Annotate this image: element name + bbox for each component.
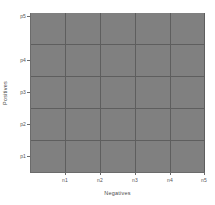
x-tick-label: n5: [201, 177, 207, 183]
y-axis-title: Positives: [0, 13, 10, 172]
gridline-vertical: [100, 13, 101, 172]
gridline-horizontal: [30, 140, 205, 141]
x-axis-tick: [204, 172, 205, 175]
x-axis-tick: [100, 172, 101, 175]
gridline-vertical: [65, 13, 66, 172]
x-axis-tick: [170, 172, 171, 175]
gridline-horizontal: [30, 76, 205, 77]
x-axis-tick: [135, 172, 136, 175]
plot-panel: [30, 13, 205, 172]
y-tick-label: p3: [20, 89, 26, 95]
y-tick-label: p1: [20, 153, 26, 159]
gridline-horizontal: [30, 44, 205, 45]
y-tick-label: p5: [20, 13, 26, 19]
y-axis-tick: [27, 16, 30, 17]
x-tick-label: n2: [97, 177, 103, 183]
gridline-horizontal: [30, 108, 205, 109]
gridline-vertical: [170, 13, 171, 172]
y-tick-label: p2: [20, 121, 26, 127]
y-tick-label: p4: [20, 57, 26, 63]
y-axis-tick: [27, 156, 30, 157]
gridline-vertical: [204, 13, 205, 172]
y-axis-tick: [27, 124, 30, 125]
y-axis-tick: [27, 92, 30, 93]
y-axis-tick: [27, 60, 30, 61]
x-tick-label: n3: [132, 177, 138, 183]
x-axis-tick: [65, 172, 66, 175]
x-tick-label: n4: [167, 177, 173, 183]
x-axis-line: [30, 172, 205, 173]
x-tick-label: n1: [62, 177, 68, 183]
gridline-vertical: [135, 13, 136, 172]
y-axis-line: [30, 13, 31, 172]
x-axis-title: Negatives: [30, 190, 205, 196]
chart-container: n1 n2 n3 n4 n5 p1 p2 p3 p4 p5 Negatives …: [0, 0, 215, 205]
y-axis-title-text: Positives: [2, 81, 8, 105]
